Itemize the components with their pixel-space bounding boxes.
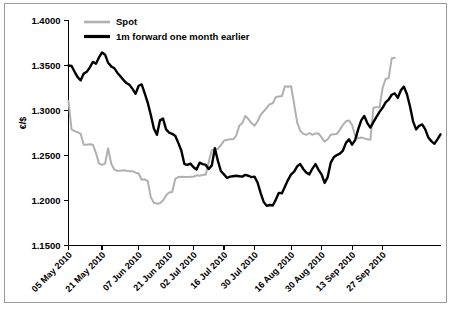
y-tick-label: 1.2500 [31, 150, 60, 161]
y-axis-title: €/$ [18, 117, 28, 130]
y-tick-label: 1.2000 [31, 195, 60, 206]
axis-spines [69, 21, 441, 246]
legend-label-forward: 1m forward one month earlier [116, 31, 250, 42]
legend-label-spot: Spot [116, 16, 138, 27]
chart-figure: 1.15001.20001.25001.30001.35001.4000€/$0… [0, 0, 454, 312]
y-tick-label: 1.3000 [31, 105, 60, 116]
y-tick-label: 1.4000 [31, 15, 60, 26]
series-line-forward [69, 52, 441, 205]
line-chart-plot: 1.15001.20001.25001.30001.35001.4000€/$0… [0, 0, 454, 312]
series-line-spot [69, 58, 395, 204]
y-tick-label: 1.3500 [31, 60, 60, 71]
y-tick-label: 1.1500 [31, 240, 60, 251]
